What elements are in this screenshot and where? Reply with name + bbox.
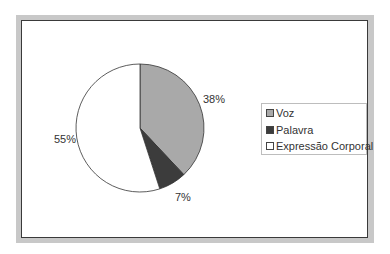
pie-slices [76, 64, 204, 192]
legend-label: Expressão Corporal [276, 140, 373, 152]
legend-item-palavra: Palavra [266, 124, 313, 136]
legend-item-expressao-corporal: Expressão Corporal [266, 140, 373, 152]
data-label-palavra: 7% [175, 191, 191, 203]
legend-swatch-palavra [266, 126, 274, 134]
data-label-expressao-corporal: 55% [54, 133, 76, 145]
legend-swatch-voz [266, 109, 274, 117]
legend-swatch-expressao-corporal [266, 142, 274, 150]
legend-label: Palavra [276, 124, 313, 136]
legend-label: Voz [276, 107, 294, 119]
legend: Voz Palavra Expressão Corporal [261, 103, 367, 155]
legend-item-voz: Voz [266, 107, 294, 119]
data-label-voz: 38% [203, 93, 225, 105]
